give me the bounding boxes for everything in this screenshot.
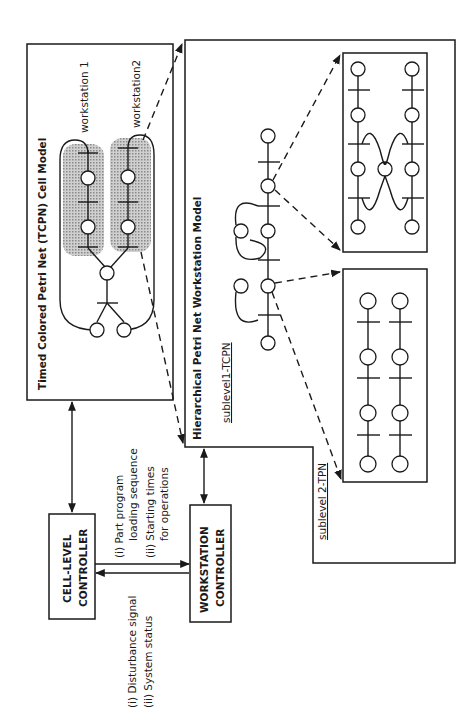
cell-controller-line2: CONTROLLER <box>77 529 89 607</box>
cell-level-controller[interactable]: CELL-LEVEL CONTROLLER <box>49 514 95 619</box>
sublevel2-label: sublevel 2-TPN <box>316 463 328 540</box>
hierarchical-workstation-model: Hierarchical Petri Net Workstation Model… <box>185 40 455 563</box>
sublevel2-net-lower <box>343 269 427 482</box>
sublevel-link-3 <box>275 272 340 283</box>
workstation2-label: workstation2 <box>130 60 142 128</box>
svg-text:(i) Disturbance signal: (i) Disturbance signal <box>126 596 138 708</box>
hierarchical-title: Hierarchical Petri Net Workstation Model <box>191 197 203 440</box>
command-signals: (i) Part program loading sequence (ii) S… <box>113 448 170 558</box>
tcpn-title: Timed Colored Petri Net (TCPN) Cell Mode… <box>36 138 48 390</box>
sublevel-link-1 <box>273 55 340 180</box>
sublevel-link-4 <box>272 292 341 479</box>
zoom-link-bottom <box>141 252 183 443</box>
svg-text:(i) Part program: (i) Part program <box>113 475 125 558</box>
cell-controller-line1: CELL-LEVEL <box>61 534 73 603</box>
sublevel1-label: sublevel1-TCPN <box>220 342 232 423</box>
svg-text:loading sequence: loading sequence <box>127 448 139 541</box>
workstation1-label: workstation 1 <box>78 61 90 133</box>
zoom-link-top <box>143 44 182 140</box>
svg-text:(ii) Starting times: (ii) Starting times <box>144 466 156 558</box>
workstation1-region <box>63 144 104 256</box>
diagram-canvas: Timed Colored Petri Net (TCPN) Cell Mode… <box>0 0 464 724</box>
workstation2-region <box>110 138 151 252</box>
workstation-controller[interactable]: WORKSTATION CONTROLLER <box>190 505 231 622</box>
svg-text:for operations: for operations <box>158 467 170 541</box>
sublevel-link-2 <box>275 190 340 250</box>
sublevel2-net-upper <box>343 53 427 252</box>
workstation-controller-line2: CONTROLLER <box>214 529 226 607</box>
sublevel1-net <box>234 129 280 350</box>
feedback-signals: (i) Disturbance signal (ii) System statu… <box>126 596 154 708</box>
tcpn-cell-model: Timed Colored Petri Net (TCPN) Cell Mode… <box>27 44 173 400</box>
workstation-controller-line1: WORKSTATION <box>198 526 210 613</box>
svg-text:(ii) System status: (ii) System status <box>142 616 154 708</box>
